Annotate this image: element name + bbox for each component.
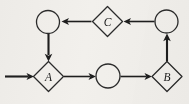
node-circle-middle[interactable] [96,64,120,88]
diamond-a-label: A [44,71,53,83]
node-diamond-c[interactable]: C [93,7,123,37]
node-circle-top-left[interactable] [37,11,60,34]
node-circle-top-right[interactable] [155,10,178,33]
circle-top-right-shape[interactable] [155,10,178,33]
circle-middle-shape[interactable] [96,64,120,88]
node-diamond-a[interactable]: A [34,62,64,92]
edge-c-to-circle-top-left [62,18,92,25]
node-diamond-b[interactable]: B [152,62,182,92]
edge-circle-top-right-to-c [124,18,155,25]
diamond-c-label: C [104,16,112,28]
diagram-svg: C A B [0,0,189,104]
circle-top-left-shape[interactable] [37,11,60,34]
edge-circle-middle-to-b [121,73,153,80]
diagram-canvas: C A B [0,0,189,104]
diamond-b-label: B [163,71,170,83]
edge-a-to-circle-middle [64,73,96,80]
edge-input-to-a [5,73,34,80]
edge-circle-top-left-to-a [45,34,53,62]
edge-b-to-circle-top-right [163,34,171,62]
